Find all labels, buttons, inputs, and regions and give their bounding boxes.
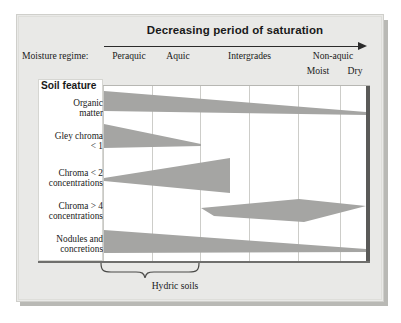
series-shapes [104,86,370,261]
moisture-regime-label: Moisture regime: [22,50,104,61]
plot-area [103,86,370,261]
row-label-organic-matter-line2: matter [20,108,103,119]
row-label-gley-chroma-line1: Gley chroma [20,131,103,142]
chart-title: Decreasing period of saturation [104,24,366,36]
shape-organic-matter [104,91,366,115]
row-label-chroma-lt2-line1: Chroma < 2 [20,168,103,179]
hydric-soils-label: Hydric soils [120,280,230,291]
direction-arrow-head-icon [358,42,367,50]
row-label-nodules-line1: Nodules and [20,234,103,245]
shape-nodules [104,230,366,253]
row-label-nodules-line2: concretions [20,244,103,255]
regime-peraquic: Peraquic [104,50,154,61]
regime-aquic: Aquic [155,50,201,61]
shape-chroma-gt4 [201,199,366,222]
regime-non-aquic: Non-aquic [298,50,368,61]
plot-right-border [366,86,370,261]
row-label-chroma-gt4-line1: Chroma > 4 [20,201,103,212]
shape-chroma-lt2 [104,158,230,193]
row-label-chroma-gt4-line2: concentrations [20,211,103,222]
sub-regime-dry: Dry [340,65,370,76]
row-label-organic-matter-line1: Organic [20,98,103,109]
direction-arrow-line [104,46,362,47]
regime-intergrades: Intergrades [202,50,297,61]
soil-feature-title: Soil feature [41,80,103,91]
row-label-gley-chroma-line2: < 1 [20,141,103,152]
panel-shadow-bottom [20,302,388,306]
row-label-chroma-lt2-line2: concentrations [20,178,103,189]
panel-shadow-right [384,20,388,304]
sub-regime-moist: Moist [296,65,340,76]
shape-gley-chroma [104,124,201,148]
figure-container: Decreasing period of saturation Moisture… [0,0,401,323]
